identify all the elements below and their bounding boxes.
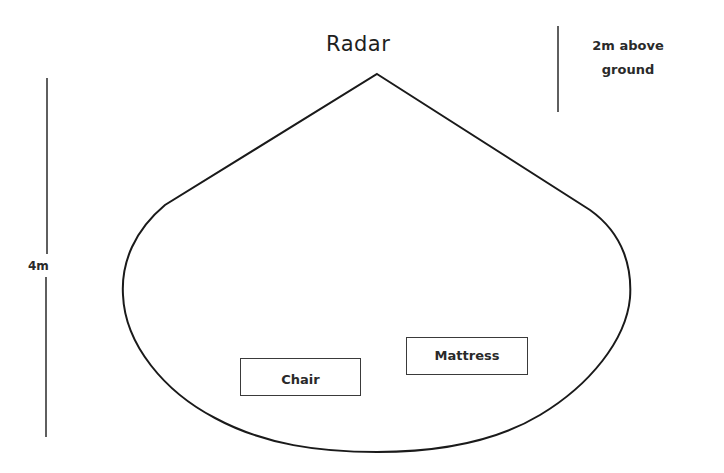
height-note-line-1: 2m above — [572, 34, 684, 58]
height-note: 2m above ground — [572, 34, 684, 82]
radar-label: Radar — [326, 32, 390, 56]
height-note-line-2: ground — [572, 58, 684, 82]
mattress-box: Mattress — [406, 337, 528, 375]
chair-label: Chair — [281, 372, 319, 387]
radar-coverage-area — [123, 74, 630, 452]
chair-box: Chair — [240, 358, 361, 396]
mattress-label: Mattress — [435, 348, 500, 363]
range-label: 4m — [28, 259, 49, 273]
